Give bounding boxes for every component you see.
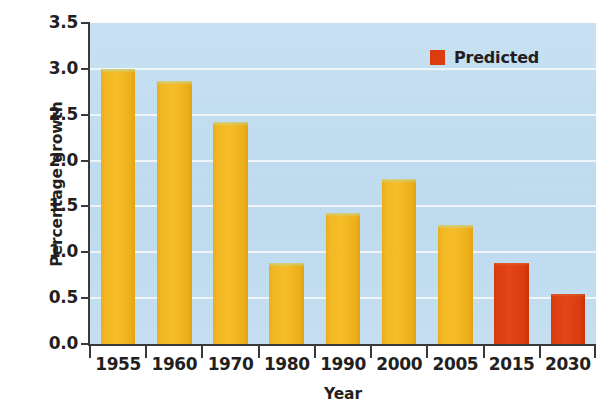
bar-1960 <box>157 81 192 344</box>
bar-2005 <box>438 225 473 344</box>
bar-2000 <box>382 179 417 344</box>
bar-2030 <box>551 294 586 344</box>
x-axis-tick-label: 1960 <box>146 355 202 374</box>
y-axis-tick-label: 0.0 <box>36 335 78 352</box>
y-axis-tick-labels: 0.00.51.01.52.02.53.03.5 <box>36 0 78 412</box>
bar-1955 <box>101 69 136 344</box>
x-axis-tick-label: 1980 <box>259 355 315 374</box>
y-axis-tick-label: 1.0 <box>36 243 78 260</box>
x-axis-tick-label: 1955 <box>90 355 146 374</box>
x-axis-tick-label: 2000 <box>371 355 427 374</box>
x-axis-title: Year <box>90 385 596 403</box>
y-axis-tick-label: 0.5 <box>36 289 78 306</box>
legend-swatch-predicted <box>430 50 445 65</box>
y-axis-tick-label: 3.5 <box>36 14 78 31</box>
x-axis-tick-label: 2005 <box>427 355 483 374</box>
bar-chart-figure: Percentage growth 0.00.51.01.52.02.53.03… <box>0 0 611 412</box>
bars-layer <box>90 23 596 344</box>
x-axis-tick-label: 1990 <box>315 355 371 374</box>
x-axis-tick-labels: 195519601970198019902000200520152030 <box>90 355 596 381</box>
y-axis-tick-label: 2.5 <box>36 106 78 123</box>
bar-1970 <box>213 122 248 344</box>
y-axis-tick-label: 3.0 <box>36 60 78 77</box>
x-axis-tick-label: 2030 <box>540 355 596 374</box>
x-axis-tick-label: 2015 <box>484 355 540 374</box>
y-axis-tick-label: 1.5 <box>36 197 78 214</box>
y-axis-tick-label: 2.0 <box>36 152 78 169</box>
bar-1990 <box>326 213 361 344</box>
plot-area <box>90 23 596 344</box>
x-axis-tick-label: 1970 <box>202 355 258 374</box>
bar-2015 <box>494 263 529 344</box>
legend-label-predicted: Predicted <box>454 48 539 67</box>
bar-1980 <box>269 263 304 344</box>
legend: Predicted <box>430 48 539 67</box>
